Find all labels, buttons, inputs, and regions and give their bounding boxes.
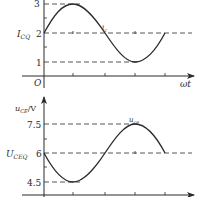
top-tick-2: 2 <box>36 29 42 39</box>
top-dashed-guides <box>44 4 192 62</box>
uceq-label: UCEQ <box>6 149 28 160</box>
uce-curve-label: uce <box>129 116 139 125</box>
ic-curve-label: ic <box>102 24 107 33</box>
top-tick-3: 3 <box>34 0 40 9</box>
waveform-diagram: 3 2 1 ICQ O ωt ic <box>0 0 205 197</box>
bottom-y-axis-label: uCE/V <box>15 104 36 114</box>
origin-label: O <box>34 78 42 88</box>
bottom-dashed-guides <box>44 124 192 182</box>
bottom-tick-6: 6 <box>36 149 42 159</box>
bottom-chart: uCE/V 7.5 6 4.5 UCEQ uce <box>6 97 194 197</box>
top-tick-1: 1 <box>36 58 42 68</box>
bottom-tick-7-5: 7.5 <box>27 120 42 130</box>
icq-label: ICQ <box>16 29 30 40</box>
top-chart: 3 2 1 ICQ O ωt ic <box>16 0 194 89</box>
top-x-label: ωt <box>180 79 191 89</box>
bottom-tick-4-5: 4.5 <box>27 178 42 188</box>
